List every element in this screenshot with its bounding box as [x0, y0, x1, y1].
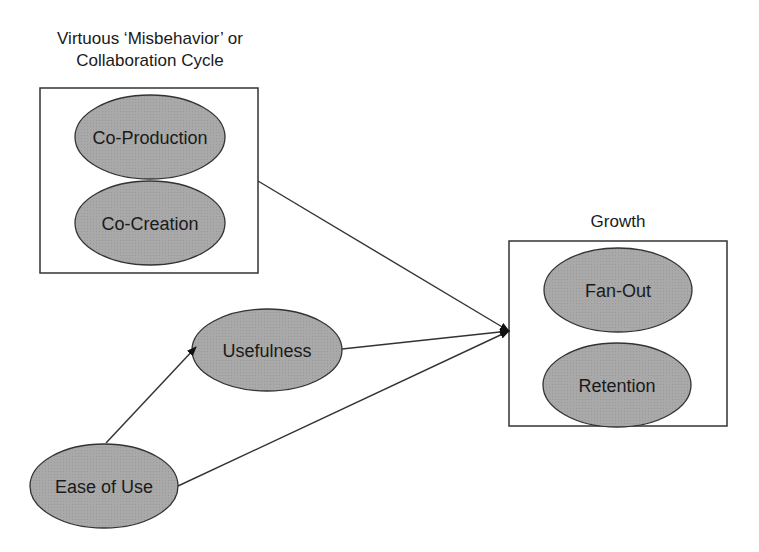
- collaboration-group-title: Virtuous ‘Misbehavior’ or Collaboration …: [20, 28, 280, 72]
- co-production-label: Co-Production: [92, 128, 207, 149]
- collaboration-title-line1: Virtuous ‘Misbehavior’ or: [20, 28, 280, 50]
- co-creation-label: Co-Creation: [101, 214, 198, 235]
- edge-ease-to-usefulness: [106, 347, 196, 443]
- usefulness-label: Usefulness: [222, 341, 311, 362]
- collaboration-title-line2: Collaboration Cycle: [20, 50, 280, 72]
- diagram-canvas: [0, 0, 759, 552]
- edge-collaboration-to-growth: [258, 181, 509, 331]
- edge-usefulness-to-growth: [342, 331, 509, 349]
- growth-group-title: Growth: [518, 211, 718, 233]
- ease-of-use-label: Ease of Use: [55, 477, 153, 498]
- retention-label: Retention: [578, 376, 655, 397]
- fan-out-label: Fan-Out: [585, 281, 651, 302]
